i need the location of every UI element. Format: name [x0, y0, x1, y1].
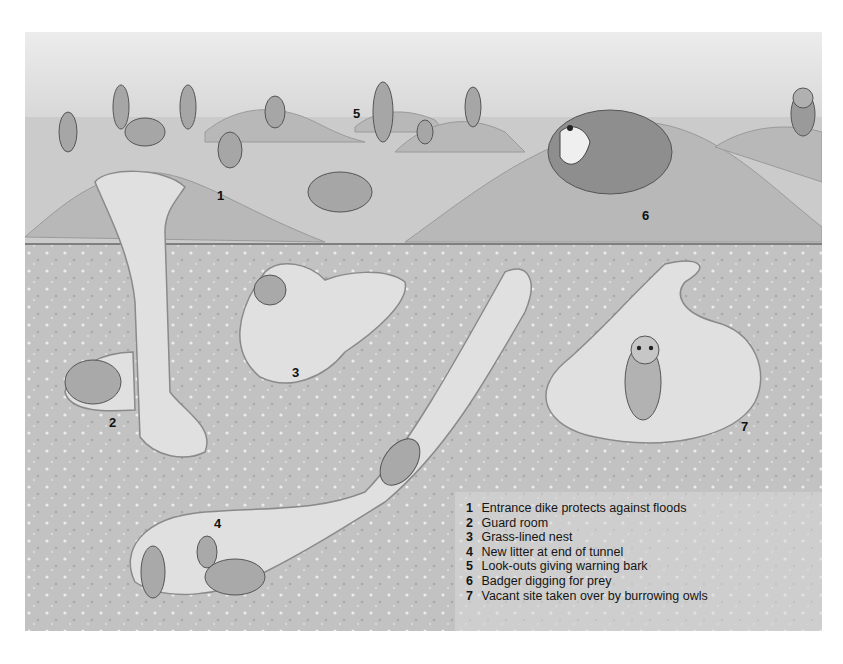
marker-1: 1 [217, 189, 224, 202]
key-text: Look-outs giving warning bark [481, 559, 647, 573]
key-item: 3 Grass-lined nest [466, 530, 708, 545]
key-number: 3 [466, 530, 478, 545]
badger-figure [548, 110, 672, 194]
key-item: 4 New litter at end of tunnel [466, 545, 708, 560]
key-number: 4 [466, 545, 478, 560]
key-text: New litter at end of tunnel [481, 545, 623, 559]
marker-6: 6 [642, 209, 649, 222]
marker-7: 7 [741, 420, 748, 433]
legend-key: 1 Entrance dike protects against floods … [466, 501, 708, 603]
surface-owl-figure [791, 88, 815, 136]
key-text: Entrance dike protects against floods [481, 501, 686, 515]
key-number: 1 [466, 501, 478, 516]
key-item: 6 Badger digging for prey [466, 574, 708, 589]
key-item: 1 Entrance dike protects against floods [466, 501, 708, 516]
key-text: Grass-lined nest [481, 530, 572, 544]
key-text: Badger digging for prey [481, 574, 611, 588]
key-text: Vacant site taken over by burrowing owls [481, 589, 707, 603]
key-item: 7 Vacant site taken over by burrowing ow… [466, 589, 708, 604]
marker-4: 4 [214, 517, 221, 530]
marker-3: 3 [292, 366, 299, 379]
key-number: 7 [466, 589, 478, 604]
key-number: 5 [466, 559, 478, 574]
key-item: 2 Guard room [466, 516, 708, 531]
key-item: 5 Look-outs giving warning bark [466, 559, 708, 574]
marker-5: 5 [353, 107, 360, 120]
key-number: 2 [466, 516, 478, 531]
key-number: 6 [466, 574, 478, 589]
marker-2: 2 [109, 416, 116, 429]
key-text: Guard room [481, 516, 548, 530]
prairie-dog-town-illustration: 1 2 3 4 5 6 7 1 Entrance dike protects a… [25, 32, 822, 631]
